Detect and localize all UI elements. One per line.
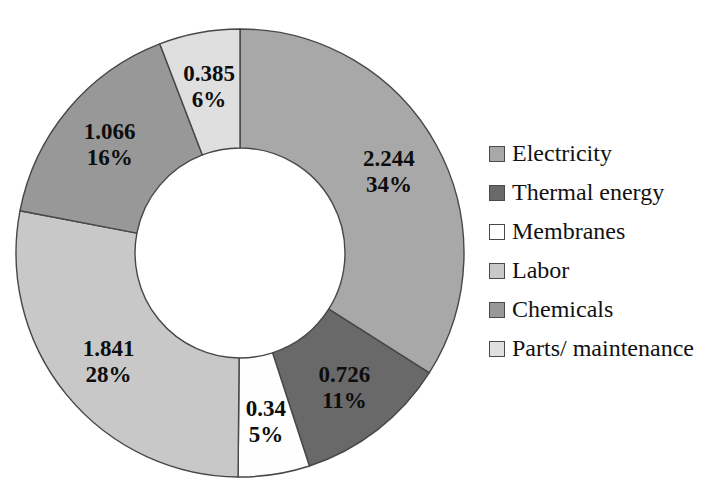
slice-label-thermal-energy: 0.72611% <box>318 362 370 413</box>
slice-label-labor: 1.84128% <box>83 336 135 387</box>
legend-swatch-thermal-energy <box>489 185 505 201</box>
legend-swatch-membranes <box>489 224 505 240</box>
legend-swatch-chemicals <box>489 302 505 318</box>
legend-label-membranes: Membranes <box>512 218 625 245</box>
legend-swatch-electricity <box>489 146 505 162</box>
legend-item-labor: Labor <box>489 251 694 290</box>
legend-label-electricity: Electricity <box>512 140 612 167</box>
legend-swatch-labor <box>489 263 505 279</box>
legend-label-labor: Labor <box>512 257 569 284</box>
pie-slice-electricity <box>240 29 464 373</box>
legend-item-electricity: Electricity <box>489 134 694 173</box>
legend-label-chemicals: Chemicals <box>512 296 613 323</box>
legend-item-thermal-energy: Thermal energy <box>489 173 694 212</box>
donut-chart-figure: 2.24434%0.72611%0.345%1.84128%1.06616%0.… <box>0 0 721 486</box>
chart-legend: ElectricityThermal energyMembranesLaborC… <box>489 134 694 368</box>
legend-item-parts-maintenance: Parts/ maintenance <box>489 329 694 368</box>
slice-label-electricity: 2.24434% <box>363 146 415 197</box>
legend-label-thermal-energy: Thermal energy <box>512 179 664 206</box>
legend-item-chemicals: Chemicals <box>489 290 694 329</box>
legend-item-membranes: Membranes <box>489 212 694 251</box>
slice-label-membranes: 0.345% <box>246 396 287 447</box>
legend-label-parts-maintenance: Parts/ maintenance <box>512 335 694 362</box>
legend-swatch-parts-maintenance <box>489 341 505 357</box>
slice-label-chemicals: 1.06616% <box>84 119 136 170</box>
